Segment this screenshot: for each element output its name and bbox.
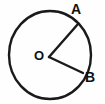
radius-line-ob: [49, 57, 83, 73]
radius-line-oa: [49, 24, 78, 57]
point-label-b: B: [85, 70, 95, 84]
geometry-figure: A B O: [0, 0, 105, 104]
center-label-o: O: [34, 49, 44, 63]
circle-diagram-canvas: [0, 0, 105, 104]
point-label-a: A: [71, 2, 81, 16]
